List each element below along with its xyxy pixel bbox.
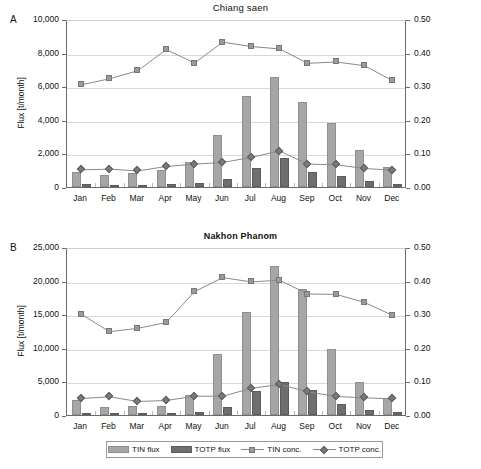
bar-totp-flux-nov <box>365 181 374 187</box>
y2-axis-tick-label: 0.30 <box>414 309 431 319</box>
x-category-separator <box>95 411 96 415</box>
marker-totp-conc--mar <box>133 397 141 405</box>
chart-panel-b: Nakhon Phanom B 05,00010,00015,00020,000… <box>0 231 481 436</box>
x-category-separator <box>152 411 153 415</box>
y2-axis-tick-label: 0.40 <box>414 48 431 58</box>
y-tickmark <box>62 54 66 55</box>
x-axis-tick-label: Jan <box>66 421 94 431</box>
y2-axis-tick-label: 0.10 <box>414 376 431 386</box>
marker-totp-conc--feb <box>105 392 113 400</box>
y2-axis-tick-label: 0.20 <box>414 115 431 125</box>
line-tin-conc- <box>81 278 393 332</box>
bar-totp-flux-mar <box>138 413 147 415</box>
legend-item-totp-flux: TOTP flux <box>171 445 231 454</box>
x-category-separator <box>379 183 380 187</box>
y-tickmark <box>62 121 66 122</box>
y2-tickmark <box>406 20 410 21</box>
bar-totp-flux-sep <box>308 390 317 415</box>
marker-tin-conc--jun <box>219 39 225 45</box>
y2-tickmark <box>406 121 410 122</box>
bar-totp-flux-jul <box>252 168 261 187</box>
y-tickmark <box>62 188 66 189</box>
y2-axis-tick-label: 0.30 <box>414 81 431 91</box>
x-axis-tick-label: Nov <box>349 421 377 431</box>
chart-a-title: Chiang saen <box>0 2 481 13</box>
bar-tin-flux-feb <box>100 407 109 415</box>
marker-tin-conc--dec <box>389 312 395 318</box>
legend-label: TOTP conc. <box>339 445 381 454</box>
bar-totp-flux-jun <box>223 407 232 415</box>
chart-b-title: Nakhon Phanom <box>0 231 481 241</box>
chart-panel-a: Chiang saen A 02,0004,0006,0008,00010,00… <box>0 0 481 228</box>
line-totp-conc- <box>81 384 393 401</box>
marker-tin-conc--apr <box>163 46 169 52</box>
y2-tickmark <box>406 282 410 283</box>
marker-tin-conc--feb <box>106 328 112 334</box>
y-tickmark <box>62 349 66 350</box>
bar-totp-flux-oct <box>337 404 346 415</box>
y-tickmark <box>62 87 66 88</box>
x-axis-tick-label: Jul <box>236 193 264 203</box>
y-tickmark <box>62 282 66 283</box>
bar-tin-flux-jan <box>72 400 81 415</box>
x-category-separator <box>265 411 266 415</box>
y2-axis-tick-label: 0.00 <box>414 410 431 420</box>
bar-totp-flux-feb <box>110 413 119 415</box>
marker-tin-conc--feb <box>106 75 112 81</box>
marker-tin-conc--oct <box>333 291 339 297</box>
y-gridline <box>67 350 405 351</box>
marker-tin-conc--may <box>191 288 197 294</box>
x-axis-tick-label: May <box>179 421 207 431</box>
x-category-separator <box>180 411 181 415</box>
x-category-separator <box>209 411 210 415</box>
y-gridline <box>67 316 405 317</box>
bar-totp-flux-sep <box>308 172 317 187</box>
y2-axis-tick-label: 0.20 <box>414 343 431 353</box>
x-category-separator <box>294 411 295 415</box>
bar-totp-flux-dec <box>393 412 402 415</box>
x-axis-tick-label: Jul <box>236 421 264 431</box>
x-axis-tick-label: Feb <box>94 193 122 203</box>
y2-tickmark <box>406 382 410 383</box>
y-gridline <box>67 122 405 123</box>
x-axis-tick-label: Aug <box>264 193 292 203</box>
x-category-separator <box>180 183 181 187</box>
x-axis-tick-label: Apr <box>151 421 179 431</box>
x-category-separator <box>350 183 351 187</box>
x-axis-tick-label: Mar <box>123 421 151 431</box>
x-category-separator <box>237 183 238 187</box>
x-category-separator <box>209 183 210 187</box>
line-tin-conc- <box>81 42 393 85</box>
bar-tin-flux-jan <box>72 172 81 187</box>
x-axis-tick-label: Feb <box>94 421 122 431</box>
legend-swatch-line <box>313 446 336 454</box>
marker-totp-conc--feb <box>105 164 113 172</box>
y-tickmark <box>62 315 66 316</box>
bar-tin-flux-sep <box>298 289 307 415</box>
y-axis-title: Flux [t/month] <box>16 281 26 381</box>
y-tickmark <box>62 416 66 417</box>
x-axis-tick-label: Oct <box>321 193 349 203</box>
bar-totp-flux-aug <box>280 158 289 187</box>
bar-totp-flux-jan <box>82 413 91 415</box>
legend-label: TIN flux <box>132 445 160 454</box>
bar-tin-flux-mar <box>128 406 137 415</box>
bar-tin-flux-aug <box>270 266 279 415</box>
bar-tin-flux-oct <box>327 349 336 415</box>
bar-totp-flux-apr <box>167 413 176 415</box>
y-tickmark <box>62 20 66 21</box>
bar-tin-flux-jul <box>242 312 251 415</box>
y2-tickmark <box>406 416 410 417</box>
y-axis-tick-label: 25,000 <box>11 242 59 252</box>
marker-tin-conc--jan <box>78 311 84 317</box>
legend-item-tin-conc-: TIN conc. <box>241 445 301 454</box>
y-gridline <box>67 88 405 89</box>
marker-tin-conc--jul <box>248 278 254 284</box>
marker-tin-conc--mar <box>134 67 140 73</box>
x-axis-tick-label: Nov <box>349 193 377 203</box>
marker-tin-conc--aug <box>276 277 282 283</box>
x-axis-tick-label: Jan <box>66 193 94 203</box>
y2-tickmark <box>406 188 410 189</box>
x-axis-tick-label: Aug <box>264 421 292 431</box>
bar-totp-flux-may <box>195 183 204 187</box>
